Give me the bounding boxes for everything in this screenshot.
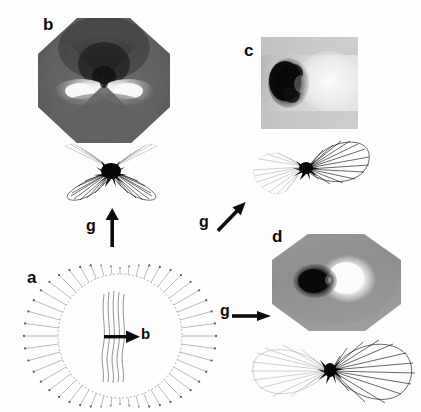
loop-spoke	[136, 396, 139, 407]
micrograph-panel-b	[33, 14, 175, 148]
loop-spoke-dot	[180, 274, 182, 276]
loop-spoke-dot	[169, 401, 171, 403]
loop-spoke-dot	[189, 281, 191, 283]
loop-spoke	[174, 367, 199, 382]
loop-spoke-dot	[210, 359, 212, 361]
loop-spoke	[91, 393, 97, 406]
panel-label-d: d	[272, 228, 282, 245]
loop-spoke	[144, 265, 150, 278]
loop-spoke	[164, 380, 181, 397]
loop-spoke	[180, 352, 212, 360]
loop-spoke-dot	[210, 310, 212, 312]
arrow-g-right-label: g	[220, 303, 230, 319]
loop-spoke-dot	[68, 401, 70, 403]
loop-spoke-dot	[148, 405, 150, 407]
loop-spoke-dot	[48, 389, 50, 391]
panel-b-image-field	[33, 14, 175, 148]
loop-spoke	[80, 267, 89, 282]
loop-spoke-dot	[110, 266, 112, 268]
loop-spoke-dot	[110, 405, 112, 407]
loop-spoke-dot	[215, 335, 217, 337]
loop-spoke-dot	[119, 403, 121, 405]
loop-spoke-dot	[180, 396, 182, 398]
loop-spoke-dot	[40, 289, 42, 291]
lobe-diagram-c	[245, 137, 375, 207]
loop-spoke	[180, 311, 212, 319]
schematic-panel-a	[8, 258, 240, 412]
arrow-g-diagonal	[208, 196, 254, 238]
loop-spoke-dot	[100, 406, 102, 408]
arrow-g-up	[100, 208, 126, 248]
loop-spoke-dot	[40, 381, 42, 383]
loop-spoke-dot	[128, 405, 130, 407]
loop-spoke-dot	[68, 269, 70, 271]
loop-spoke-dot	[27, 359, 29, 361]
loop-spoke-dot	[48, 281, 50, 283]
loop-spoke	[111, 266, 112, 274]
lobe-c-faint	[253, 153, 303, 194]
loop-spoke	[151, 390, 160, 405]
loop-spoke-dot	[169, 269, 171, 271]
loop-spoke	[158, 385, 171, 402]
arrow-g-right	[232, 307, 272, 325]
loop-spoke-dot	[33, 371, 35, 373]
loop-spoke	[49, 282, 70, 298]
loop-spoke-dot	[23, 335, 25, 337]
loop-spoke-dot	[58, 396, 60, 398]
loop-spoke	[181, 344, 214, 348]
loop-spoke-dot	[205, 371, 207, 373]
loop-spoke-dot	[198, 289, 200, 291]
loop-spoke-dot	[214, 347, 216, 349]
loop-spoke-dot	[148, 264, 150, 266]
loop-spoke	[136, 265, 139, 276]
panel-c-image-field	[261, 37, 361, 129]
loop-spoke-dot	[138, 265, 140, 267]
panel-label-a: a	[27, 269, 36, 286]
panel-d-image-field	[268, 232, 404, 334]
arrow-g-up-label: g	[86, 218, 96, 234]
loop-spoke-dot	[214, 322, 216, 324]
micrograph-panel-d	[268, 232, 404, 334]
loop-spoke-dot	[24, 347, 26, 349]
loop-spoke-dot	[119, 267, 121, 269]
loop-spoke	[101, 265, 104, 276]
loop-spoke	[80, 390, 89, 405]
loop-spoke-dot	[189, 389, 191, 391]
loop-spoke	[34, 300, 63, 312]
loop-spoke-dot	[205, 299, 207, 301]
loop-spoke	[101, 396, 104, 407]
micrograph-panel-c	[261, 37, 358, 129]
loop-spoke-dot	[33, 299, 35, 301]
loop-spoke	[128, 397, 129, 405]
lobe-diagram-d	[243, 334, 421, 410]
loop-spoke	[69, 270, 82, 287]
loop-spoke	[59, 275, 76, 292]
burgers-vector-label: b	[141, 326, 150, 341]
loop-spoke	[128, 266, 129, 274]
loop-spoke	[28, 311, 60, 319]
loop-spoke	[59, 380, 76, 397]
loop-spoke	[49, 374, 70, 390]
lobe-d-faint	[251, 345, 327, 396]
lobe-b-strong-lower-right	[113, 172, 156, 200]
loop-spoke	[174, 290, 199, 305]
panel-label-b: b	[43, 16, 53, 33]
loop-spoke-dot	[79, 266, 81, 268]
loop-spoke	[25, 324, 58, 328]
loop-spoke-dot	[159, 266, 161, 268]
loop-spoke	[181, 324, 214, 328]
loop-spoke-dot	[27, 310, 29, 312]
loop-spoke	[41, 367, 66, 382]
lobe-c-strong	[308, 141, 369, 184]
loop-spoke-dot	[138, 406, 140, 408]
loop-spoke-dot	[90, 405, 92, 407]
loop-spoke	[151, 267, 160, 282]
loop-spoke	[158, 270, 171, 287]
loop-spoke	[34, 360, 63, 372]
figure-canvas: b	[0, 0, 421, 412]
loop-spoke	[169, 374, 190, 390]
loop-spoke-dot	[90, 264, 92, 266]
loop-spoke-dot	[198, 381, 200, 383]
loop-spoke	[177, 300, 206, 312]
loop-spoke-dot	[58, 274, 60, 276]
